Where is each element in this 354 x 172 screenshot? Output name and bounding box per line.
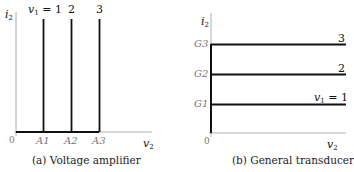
panel-a-caption: (a) Voltage amplifier — [32, 155, 141, 166]
panel-b-caption: (b) General transducer — [232, 155, 354, 166]
panel-b-tick-g1: G1 — [194, 99, 208, 109]
panel-a-tick-a2: A2 — [64, 136, 78, 146]
panel-a-y-axis-label: i2 — [5, 9, 13, 22]
panel-b-tick-g3: G3 — [194, 39, 208, 49]
panel-b-curve-label-3: 3 — [338, 33, 345, 44]
panel-a-curves — [16, 19, 100, 132]
panel-a-curve-label-3: 3 — [96, 4, 103, 15]
panel-a-tick-a3: A3 — [92, 136, 106, 146]
panel-a-curve-label-1: v1 = 1 — [28, 4, 62, 17]
panel-a-tick-a1: A1 — [36, 136, 50, 146]
panel-a-curve-label-2: 2 — [68, 4, 75, 15]
panel-a-x-axis-label: v2 — [143, 138, 154, 151]
panel-b-tick-g2: G2 — [194, 69, 208, 79]
panel-b-origin-label: 0 — [204, 137, 210, 146]
panel-b-curve-label-2: 2 — [338, 63, 345, 74]
panel-b-x-axis-label: v2 — [327, 139, 338, 152]
panel-b-curves — [211, 44, 346, 133]
panel-a-origin-label: 0 — [9, 136, 15, 145]
panel-b-y-axis-label: i2 — [201, 16, 209, 29]
panel-b-curve-label-1: v1 = 1 — [314, 92, 348, 105]
panel-a-axes — [14, 12, 152, 136]
